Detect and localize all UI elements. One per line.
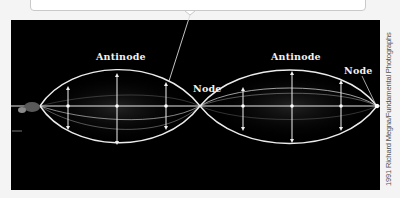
photo-credit: 1991 Richard Megna/Fundamental Photograp… <box>384 32 393 186</box>
node-label-middle: Node <box>193 83 222 94</box>
callout-pointer <box>169 11 195 81</box>
antinode-label-left: Antinode <box>96 51 146 62</box>
antinode-label-right: Antinode <box>271 51 321 62</box>
standing-wave-diagram <box>0 0 400 198</box>
node-label-right: Node <box>344 65 373 76</box>
